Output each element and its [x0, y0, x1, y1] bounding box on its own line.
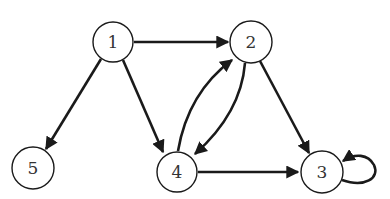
node-2-label: 2 — [246, 32, 257, 52]
edge-2-3 — [260, 61, 309, 153]
node-5-label: 5 — [28, 158, 39, 178]
graph-svg: 1 2 3 4 5 — [0, 0, 390, 199]
node-4-label: 4 — [172, 162, 183, 182]
node-3-label: 3 — [317, 162, 328, 182]
node-4: 4 — [157, 152, 197, 192]
edge-3-3 — [342, 156, 375, 183]
node-1-label: 1 — [108, 32, 119, 52]
edge-1-5 — [46, 59, 101, 149]
edge-1-4 — [123, 60, 163, 152]
edge-2-4 — [195, 63, 245, 154]
edge-4-2 — [178, 60, 232, 151]
node-2: 2 — [230, 21, 272, 63]
graph-diagram: 1 2 3 4 5 — [0, 0, 390, 199]
node-5: 5 — [12, 147, 54, 189]
node-1: 1 — [93, 22, 133, 62]
node-3: 3 — [301, 151, 343, 193]
